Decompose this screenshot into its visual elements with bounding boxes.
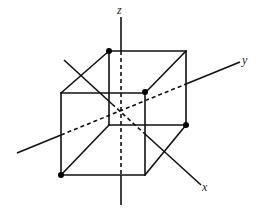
z-axis-label: z: [116, 3, 122, 17]
cube-axes-diagram: z y x: [0, 0, 262, 213]
cube: [61, 51, 186, 175]
y-axis-label: y: [241, 53, 248, 67]
vertex-dot: [106, 48, 112, 54]
vertex-dot: [58, 172, 64, 178]
y-axis: [17, 62, 240, 153]
x-axis-label: x: [201, 180, 208, 194]
x-axis: [64, 60, 201, 185]
vertex-dot: [142, 89, 148, 95]
vertex-dot: [183, 122, 189, 128]
